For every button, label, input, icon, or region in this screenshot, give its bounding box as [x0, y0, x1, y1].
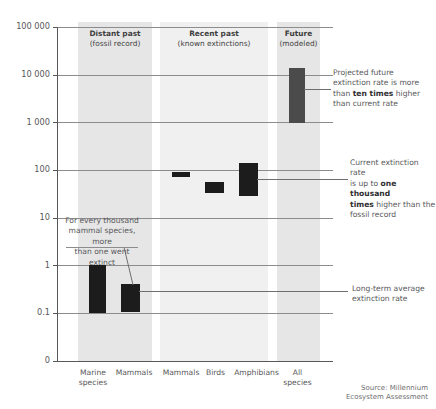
ytick-label-0point1: 0.1 [0, 308, 50, 317]
ytick-label-10: 10 [0, 213, 50, 222]
gridline-100000 [57, 27, 333, 28]
bar-recent-mammals [172, 172, 190, 177]
annotation-current-note: Current extinction rate is up to one tho… [350, 158, 436, 220]
annotation-future-line3: than ten times higher [333, 89, 431, 99]
annotation-baseline-note: Long-term average extinction rate [352, 284, 434, 305]
category-label-line1: Birds [200, 368, 231, 378]
source-line2: Ecosystem Assessment [280, 393, 428, 402]
annotation-current-line2-pre: is up to [350, 179, 381, 188]
annotation-future-line3-pre: than [333, 89, 353, 98]
annotation-future-emphasis: ten times [353, 89, 394, 98]
era-header-future: Future (modeled) [275, 29, 322, 49]
annotation-future-line2: extinction rate is more [333, 78, 431, 88]
category-label-recent-birds: Birds [200, 368, 231, 378]
annotation-current-line3: times higher than the [350, 200, 436, 210]
era-title-future: Future [275, 29, 322, 39]
era-sub-recent-past: (known extinctions) [160, 39, 268, 49]
category-label-line1: Mammals [159, 368, 203, 378]
era-header-distant-past: Distant past (fossil record) [78, 29, 152, 49]
annotation-future-note: Projected future extinction rate is more… [333, 68, 431, 110]
annotation-future-line1: Projected future [333, 68, 431, 78]
annotation-baseline-line1: Long-term average [352, 284, 434, 294]
category-label-recent-mammals: Mammals [159, 368, 203, 378]
era-sub-future: (modeled) [275, 39, 322, 49]
annotation-current-line1: Current extinction rate [350, 158, 436, 179]
y-axis-line [57, 27, 58, 362]
bar-recent-amphibians [239, 163, 258, 196]
annotation-mammals-line1: For every thousand [62, 216, 142, 226]
category-label-line1: Marine [72, 368, 114, 378]
annotation-mammals-note: For every thousand mammal species, more … [62, 216, 142, 268]
annotation-future-line3-post: higher [393, 89, 420, 98]
era-sub-distant-past: (fossil record) [78, 39, 152, 49]
annotation-current-line4: fossil record [350, 210, 436, 220]
leader-line-future-note [304, 89, 331, 90]
era-title-distant-past: Distant past [78, 29, 152, 39]
category-label-line1: Mammals [112, 368, 156, 378]
annotation-mammals-line2: mammal species, more [62, 226, 142, 247]
x-axis-line [57, 361, 333, 362]
era-title-recent-past: Recent past [160, 29, 268, 39]
ytick-label-100000: 100 000 [0, 22, 50, 31]
ytick-label-1000: 1 000 [0, 118, 50, 127]
source-line1: Source: Millennium [280, 384, 428, 393]
ytick-label-0: 0 [0, 356, 50, 365]
category-label-line2: species [72, 378, 114, 388]
category-label-distant-mammals: Mammals [112, 368, 156, 378]
bar-future-all-species [289, 68, 305, 123]
source-credit: Source: Millennium Ecosystem Assessment [280, 384, 428, 402]
annotation-current-line2: is up to one thousand [350, 179, 436, 200]
annotation-baseline-line2: extinction rate [352, 294, 434, 304]
category-label-line1: All [274, 368, 321, 378]
gridline-0point1 [57, 313, 333, 314]
ytick-label-100: 100 [0, 165, 50, 174]
annotation-current-line3-post: higher than the [374, 200, 435, 209]
era-header-recent-past: Recent past (known extinctions) [160, 29, 268, 49]
annotation-future-line4: than current rate [333, 99, 431, 109]
category-label-marine-species: Marine species [72, 368, 114, 387]
ytick-label-10000: 10 000 [0, 70, 50, 79]
leader-line-current-note [257, 179, 348, 180]
bar-recent-birds [205, 182, 224, 193]
ytick-label-1: 1 [0, 261, 50, 270]
bar-marine-species [89, 265, 106, 313]
annotation-current-emphasis-2: times [350, 200, 374, 209]
annotation-mammals-line3: than one went extinct [62, 247, 142, 268]
gridline-100 [57, 170, 333, 171]
